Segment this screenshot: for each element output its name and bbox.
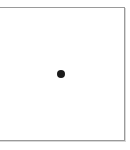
dot-icon bbox=[57, 70, 65, 78]
